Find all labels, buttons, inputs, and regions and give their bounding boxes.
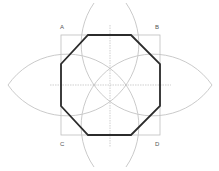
octagon-construction-diagram: A B C D: [0, 0, 219, 171]
background: [0, 0, 219, 171]
label-c: C: [60, 141, 65, 147]
label-b: B: [155, 24, 159, 30]
label-d: D: [155, 141, 160, 147]
label-a: A: [60, 24, 64, 30]
